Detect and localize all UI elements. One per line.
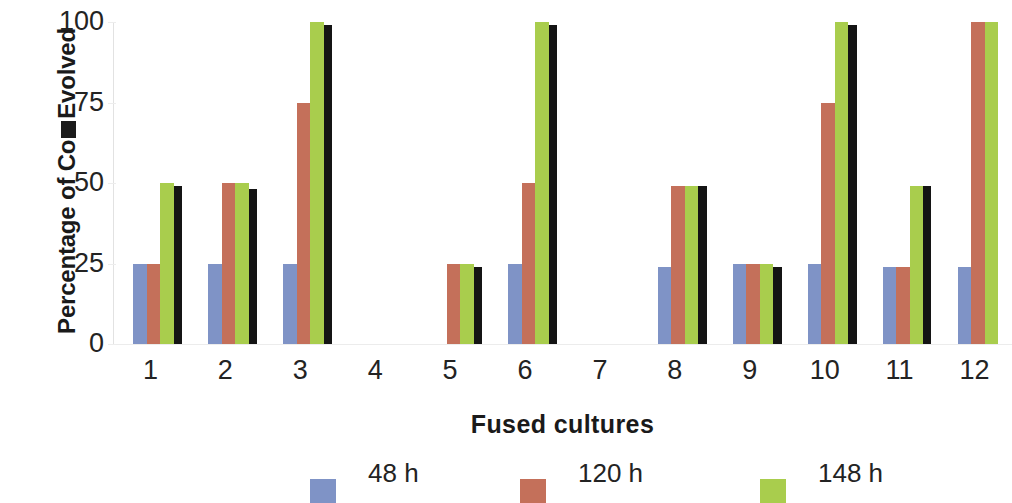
y-tick-label: 25 bbox=[40, 250, 104, 277]
bar-group bbox=[358, 22, 412, 344]
bar-group bbox=[808, 22, 862, 344]
legend-swatch bbox=[310, 479, 336, 503]
plot-area bbox=[113, 22, 1012, 344]
bar-group bbox=[508, 22, 562, 344]
bar-group bbox=[733, 22, 787, 344]
bar bbox=[835, 22, 849, 344]
y-tick-label: 75 bbox=[40, 89, 104, 116]
x-axis-title: Fused cultures bbox=[113, 410, 1012, 439]
y-gridline-tick bbox=[108, 103, 116, 104]
x-tick-label: 2 bbox=[188, 355, 263, 385]
bar-group bbox=[208, 22, 262, 344]
legend-label: 48 h bbox=[368, 458, 419, 488]
bar bbox=[923, 186, 931, 344]
bar bbox=[910, 186, 924, 344]
bar bbox=[535, 22, 549, 344]
y-axis-tick-labels: 0255075100 bbox=[40, 0, 104, 499]
bar-group bbox=[883, 22, 937, 344]
bar bbox=[883, 267, 897, 344]
x-tick-label: 4 bbox=[338, 355, 413, 385]
bar bbox=[685, 186, 699, 344]
chart-legend: 48 h120 h148 h bbox=[0, 458, 1012, 499]
x-axis-tick-labels: 123456789101112 bbox=[113, 355, 1012, 389]
x-tick-label: 9 bbox=[712, 355, 787, 385]
bar bbox=[671, 186, 685, 344]
bar bbox=[658, 267, 672, 344]
bar bbox=[222, 183, 236, 344]
bar bbox=[310, 22, 324, 344]
bar bbox=[160, 183, 174, 344]
x-tick-label: 7 bbox=[563, 355, 638, 385]
bar-group bbox=[583, 22, 637, 344]
x-tick-label: 11 bbox=[862, 355, 937, 385]
bar-group bbox=[133, 22, 187, 344]
bar bbox=[896, 267, 910, 344]
y-tick-label: 0 bbox=[40, 330, 104, 357]
bar bbox=[474, 267, 482, 344]
x-tick-label: 10 bbox=[787, 355, 862, 385]
bar bbox=[698, 186, 706, 344]
bar bbox=[808, 264, 822, 345]
bar-group bbox=[958, 22, 1012, 344]
y-gridline-tick bbox=[108, 344, 116, 345]
y-tick-label: 50 bbox=[40, 169, 104, 196]
bar bbox=[133, 264, 147, 345]
bar bbox=[174, 186, 182, 344]
x-tick-label: 8 bbox=[637, 355, 712, 385]
x-tick-label: 3 bbox=[263, 355, 338, 385]
bar bbox=[208, 264, 222, 345]
x-tick-label: 1 bbox=[113, 355, 188, 385]
x-tick-label: 12 bbox=[937, 355, 1012, 385]
bar bbox=[733, 264, 747, 345]
bar bbox=[249, 189, 257, 344]
bar bbox=[147, 264, 161, 345]
legend-swatch bbox=[520, 479, 546, 503]
bar bbox=[971, 22, 985, 344]
y-gridline-tick bbox=[108, 264, 116, 265]
y-gridline-tick bbox=[108, 22, 116, 23]
bar bbox=[773, 267, 781, 344]
bar bbox=[821, 103, 835, 345]
y-tick-label: 100 bbox=[40, 8, 104, 35]
legend-swatch bbox=[760, 479, 786, 503]
bar-group bbox=[433, 22, 487, 344]
bar-group bbox=[283, 22, 337, 344]
x-axis-line bbox=[113, 344, 1012, 345]
bar-group bbox=[658, 22, 712, 344]
bar bbox=[297, 103, 311, 345]
bar bbox=[549, 25, 557, 344]
bar bbox=[746, 264, 760, 345]
bar bbox=[447, 264, 461, 345]
y-gridline-tick bbox=[108, 183, 116, 184]
x-tick-label: 6 bbox=[488, 355, 563, 385]
bar bbox=[324, 25, 332, 344]
bar bbox=[848, 25, 856, 344]
legend-label: 120 h bbox=[578, 458, 643, 488]
bar bbox=[283, 264, 297, 345]
x-tick-label: 5 bbox=[413, 355, 488, 385]
bar bbox=[760, 264, 774, 345]
bar bbox=[985, 22, 999, 344]
bar bbox=[508, 264, 522, 345]
bar bbox=[460, 264, 474, 345]
bar bbox=[235, 183, 249, 344]
legend-label: 148 h bbox=[818, 458, 883, 488]
bar bbox=[522, 183, 536, 344]
bar bbox=[958, 267, 972, 344]
